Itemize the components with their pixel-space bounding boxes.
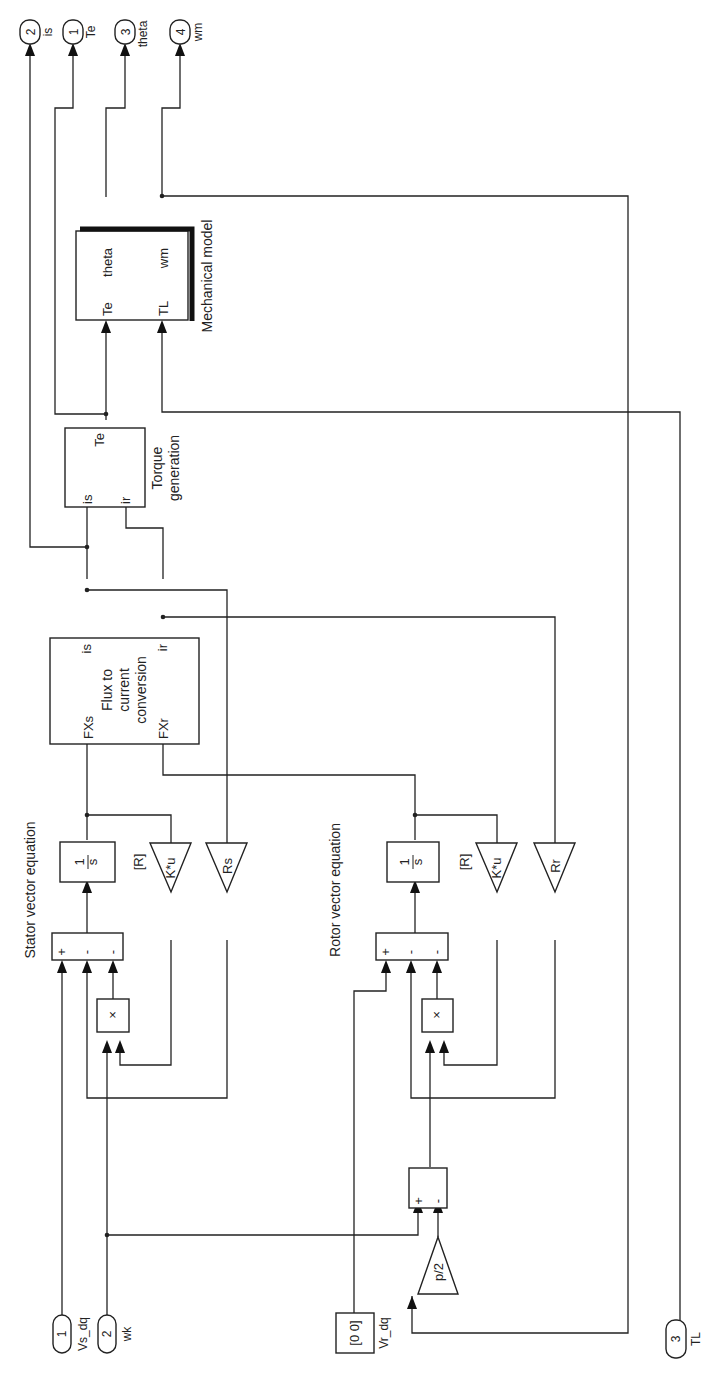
inport-wk[interactable]: 2 wk	[98, 1315, 134, 1353]
port-label-fxs: FXs	[81, 715, 96, 739]
inport-label: TL	[689, 1332, 703, 1346]
sum-sign: -	[105, 950, 120, 954]
port-label-is: is	[80, 494, 95, 504]
outport-is[interactable]: 2 is	[20, 20, 55, 44]
pole-gain-label: p/2	[431, 1263, 446, 1281]
constant-vr-dq-block[interactable]: [0 0] Vr_dq	[336, 1313, 391, 1353]
sum-sign: -	[429, 950, 444, 954]
inport-number: 3	[669, 1335, 683, 1342]
outport-te[interactable]: 1 Te	[63, 20, 98, 44]
torque-generation-block[interactable]: Te is ir Torque generation	[65, 428, 182, 507]
inport-number: 2	[100, 1330, 114, 1337]
sum-sign: +	[378, 948, 393, 956]
sum-sign: -	[430, 1199, 445, 1203]
inport-vs-dq[interactable]: 1 Vs_dq	[53, 1315, 90, 1353]
port-label-te: Te	[100, 302, 115, 316]
outport-number: 2	[24, 28, 38, 35]
rr-gain-label: Rr	[548, 858, 563, 872]
product-symbol: ×	[105, 1011, 120, 1019]
inport-number: 1	[55, 1330, 69, 1337]
slip-sum-block[interactable]: + -	[409, 1168, 447, 1208]
inport-label: wk	[120, 1326, 134, 1343]
outport-number: 4	[174, 28, 188, 35]
sum-sign: +	[54, 948, 69, 956]
outport-label: Te	[84, 25, 98, 38]
inport-tl[interactable]: 3 TL	[666, 1320, 703, 1358]
stator-section-title: Stator vector equation	[22, 822, 38, 959]
inport-label: Vs_dq	[76, 1317, 90, 1351]
port-label-te: Te	[92, 433, 107, 447]
outport-wm[interactable]: 4 wm	[170, 20, 205, 44]
integrator-denominator: s	[85, 858, 100, 865]
stator-product-block[interactable]: ×	[97, 999, 129, 1032]
matrix-gain-label: K*u	[489, 858, 504, 879]
outport-label: theta	[136, 20, 150, 47]
rotor-product-block[interactable]: ×	[422, 999, 453, 1032]
stator-rs-gain-block[interactable]: Rs	[206, 843, 247, 892]
constant-value: [0 0]	[347, 1320, 362, 1345]
port-label-fxr: FXr	[156, 717, 171, 739]
block-name-line1: Torque	[149, 446, 165, 489]
outport-label: wm	[191, 23, 205, 43]
stator-matrix-gain-block[interactable]: K*u [R]	[131, 843, 191, 892]
pole-gain-block[interactable]: p/2	[418, 1237, 458, 1294]
product-symbol: ×	[429, 1011, 444, 1019]
rs-gain-label: Rs	[220, 858, 235, 874]
flux-to-current-block[interactable]: is ir FXs FXr Flux to current conversion	[50, 638, 199, 744]
port-label-tl: TL	[156, 301, 171, 316]
outport-theta[interactable]: 3 theta	[115, 20, 150, 47]
outport-number: 1	[67, 28, 81, 35]
rotor-matrix-gain-block[interactable]: K*u [R]	[457, 843, 517, 892]
port-label-wm: wm	[156, 248, 171, 269]
stator-integrator-block[interactable]: 1 s	[60, 842, 115, 882]
block-name-line2: current	[116, 668, 132, 712]
simulink-diagram: 2 is 1 Te 3 theta 4 wm theta wm Te TL Me…	[0, 0, 718, 1378]
block-name-line3: conversion	[133, 656, 149, 724]
matrix-gain-param: [R]	[457, 854, 472, 871]
port-label-is: is	[79, 644, 94, 654]
sum-sign: -	[403, 950, 418, 954]
constant-label: Vr_dq	[377, 1317, 391, 1349]
rotor-rr-gain-block[interactable]: Rr	[534, 843, 575, 892]
rotor-section-title: Rotor vector equation	[327, 823, 343, 957]
outport-number: 3	[119, 28, 133, 35]
block-name-line1: Flux to	[99, 669, 115, 711]
stator-sum-block[interactable]: + - -	[52, 933, 123, 960]
matrix-gain-label: K*u	[163, 858, 178, 879]
rotor-sum-block[interactable]: + - -	[376, 933, 448, 960]
mechanical-model-block[interactable]: theta wm Te TL Mechanical model	[76, 220, 215, 333]
matrix-gain-param: [R]	[131, 854, 146, 871]
block-name-line2: generation	[166, 435, 182, 501]
port-label-theta: theta	[100, 247, 115, 277]
integrator-denominator: s	[410, 858, 425, 865]
sum-sign: +	[411, 1197, 426, 1205]
port-label-ir: ir	[118, 496, 133, 504]
rotor-integrator-block[interactable]: 1 s	[387, 842, 439, 882]
outport-label: is	[41, 28, 55, 37]
port-label-ir: ir	[155, 643, 170, 651]
sum-sign: -	[79, 950, 94, 954]
block-name: Mechanical model	[199, 220, 215, 333]
